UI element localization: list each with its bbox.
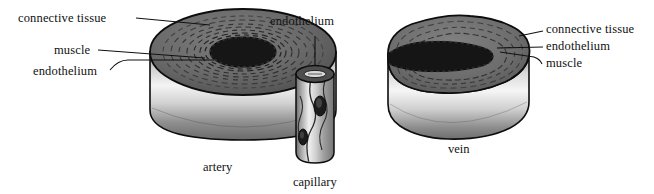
- label-vein-connective-tissue: connective tissue: [546, 22, 634, 37]
- capillary-illustration: [296, 66, 334, 164]
- caption-capillary: capillary: [293, 175, 337, 190]
- label-capillary-endothelium: endothelium: [270, 14, 334, 29]
- diagram-canvas: connective tissue muscle endothelium end…: [0, 0, 654, 194]
- label-artery-connective-tissue: connective tissue: [18, 11, 106, 26]
- caption-vein: vein: [448, 142, 470, 157]
- caption-artery: artery: [203, 160, 232, 175]
- label-vein-muscle: muscle: [546, 56, 582, 71]
- label-artery-endothelium: endothelium: [33, 64, 97, 79]
- label-artery-muscle: muscle: [54, 43, 90, 58]
- label-vein-endothelium: endothelium: [546, 39, 610, 54]
- vein-illustration: [386, 15, 530, 139]
